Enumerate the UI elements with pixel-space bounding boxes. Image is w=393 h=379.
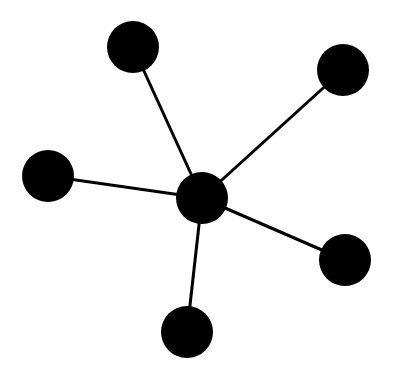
star-graph-diagram bbox=[0, 0, 393, 379]
node-bottom bbox=[161, 306, 213, 358]
node-bottom-right bbox=[319, 234, 371, 286]
node-left bbox=[22, 150, 74, 202]
node-top-left bbox=[107, 21, 159, 73]
node-center bbox=[176, 172, 228, 224]
nodes-group bbox=[22, 21, 371, 358]
node-top-right bbox=[317, 44, 369, 96]
edge-center-top-right bbox=[202, 70, 343, 198]
